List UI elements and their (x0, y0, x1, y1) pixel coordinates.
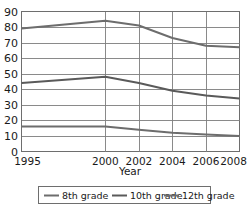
chart-canvas: 0102030405060708090 19952000200220042006… (0, 0, 250, 210)
x-tick-label-2006: 2006 (193, 155, 220, 167)
y-tick-label-80: 80 (4, 21, 18, 34)
x-tick-label-2000: 2000 (92, 155, 119, 167)
y-tick-label-70: 70 (4, 37, 18, 50)
line-chart-figure: 0102030405060708090 19952000200220042006… (0, 0, 250, 210)
y-tick-label-20: 20 (4, 114, 18, 127)
x-tick-label-2004: 2004 (159, 155, 186, 167)
x-tick-label-1995: 1995 (14, 155, 41, 167)
y-tick-label-30: 30 (4, 99, 18, 112)
chart-legend: 8th grade10th grade12th grade (39, 187, 235, 204)
y-tick-label-10: 10 (4, 130, 18, 143)
y-tick-label-40: 40 (4, 83, 18, 96)
legend-label-8th-grade: 8th grade (62, 190, 109, 201)
y-tick-label-60: 60 (4, 52, 18, 65)
y-axis-tick-labels: 0102030405060708090 (4, 6, 18, 159)
legend-items: 8th grade10th grade12th grade (44, 190, 235, 201)
y-tick-label-90: 90 (4, 6, 18, 19)
x-axis-title: Year (118, 165, 142, 177)
x-tick-label-2008: 2008 (220, 155, 247, 167)
legend-label-12th-grade: 12th grade (182, 190, 235, 201)
y-tick-label-50: 50 (4, 68, 18, 81)
